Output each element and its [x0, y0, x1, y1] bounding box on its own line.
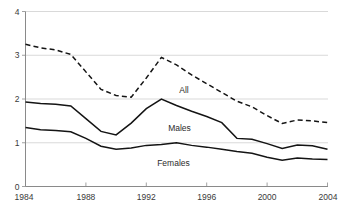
- series-label-all: All: [179, 85, 189, 95]
- x-tick-label-2004: 2004: [319, 192, 338, 202]
- chart-canvas: 01234 198419881992199620002004 AllMalesF…: [0, 0, 338, 214]
- series-annotations: AllMalesFemales: [157, 85, 191, 169]
- x-tick-label-1992: 1992: [137, 192, 156, 202]
- y-tick-label-3: 3: [15, 50, 20, 60]
- line-chart: 01234 198419881992199620002004 AllMalesF…: [0, 0, 338, 214]
- y-tick-label-1: 1: [15, 138, 20, 148]
- series-label-males: Males: [168, 123, 191, 133]
- y-tick-label-4: 4: [15, 7, 20, 17]
- x-tick-label-1996: 1996: [197, 192, 216, 202]
- x-axis-tick-labels: 198419881992199620002004: [15, 192, 338, 202]
- x-tick-label-1988: 1988: [76, 192, 95, 202]
- y-axis-tick-labels: 01234: [15, 7, 20, 192]
- y-tick-label-2: 2: [15, 94, 20, 104]
- series-label-females: Females: [157, 158, 190, 168]
- x-tick-label-1984: 1984: [15, 192, 34, 202]
- series-line-all: [26, 44, 328, 123]
- x-tick-label-2000: 2000: [258, 192, 277, 202]
- y-tick-label-0: 0: [15, 182, 20, 192]
